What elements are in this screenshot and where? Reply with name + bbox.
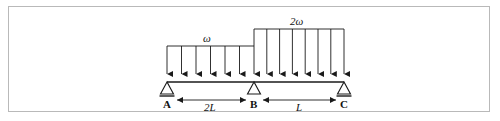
dimension-label-ab: 2L bbox=[204, 102, 216, 113]
support-b bbox=[248, 82, 261, 94]
support-b-triangle bbox=[248, 82, 261, 94]
support-label-a: A bbox=[163, 99, 171, 110]
load-label-omega: ω bbox=[203, 33, 211, 44]
support-a bbox=[160, 82, 175, 96]
figure-canvas: ω 2ω A B C 2L L bbox=[0, 0, 500, 121]
distributed-load-omega bbox=[167, 46, 254, 74]
support-c bbox=[337, 82, 352, 96]
load-label-two-omega: 2ω bbox=[290, 16, 303, 27]
support-c-triangle bbox=[338, 82, 351, 94]
support-label-b: B bbox=[250, 99, 257, 110]
support-a-triangle bbox=[161, 82, 174, 94]
distributed-load-two-omega bbox=[254, 29, 344, 74]
dimension-label-bc: L bbox=[296, 102, 302, 113]
support-label-c: C bbox=[340, 99, 348, 110]
